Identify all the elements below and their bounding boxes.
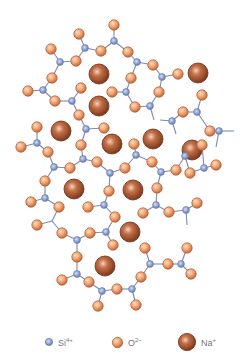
- oxygen-ion: [186, 269, 196, 279]
- silicate-structure-diagram: [0, 0, 252, 320]
- silicon-ion: [153, 202, 160, 209]
- oxygen-ion: [57, 275, 67, 285]
- oxygen-ion: [112, 284, 122, 294]
- si-ion-icon: [44, 337, 54, 347]
- silicon-ion: [182, 153, 189, 160]
- oxygen-ion: [152, 183, 162, 193]
- oxygen-ion: [164, 207, 174, 217]
- oxygen-ion: [93, 301, 103, 311]
- oxygen-ion: [197, 140, 207, 150]
- oxygen-ion: [54, 202, 64, 212]
- oxygen-ion: [140, 243, 150, 253]
- silicon-ion: [80, 156, 87, 163]
- silicon-ion: [74, 237, 81, 244]
- oxygen-ion: [23, 86, 33, 96]
- sodium-ion: [143, 129, 163, 149]
- silicon-ion: [133, 152, 140, 159]
- oxygen-ion: [130, 102, 140, 112]
- legend-item-o: O2−: [111, 330, 142, 354]
- sodium-ion: [64, 179, 84, 199]
- sodium-ion: [120, 222, 140, 242]
- oxygen-ion: [192, 198, 202, 208]
- oxygen-ion: [185, 168, 195, 178]
- o-ion-icon: [111, 336, 124, 349]
- silicon-ion: [123, 89, 130, 96]
- silicon-ion: [57, 59, 64, 66]
- oxygen-ion: [57, 228, 67, 238]
- silicon-ion: [129, 286, 136, 293]
- oxygen-ion: [138, 208, 148, 218]
- oxygen-ion: [85, 228, 95, 238]
- oxygen-ion: [136, 272, 146, 282]
- oxygen-ion: [109, 20, 119, 30]
- silicon-ion: [82, 45, 89, 52]
- silicon-ion: [183, 207, 190, 214]
- legend-label-si: Si4+: [58, 337, 73, 348]
- oxygen-ion: [76, 83, 86, 93]
- oxygen-ion: [26, 197, 36, 207]
- oxygen-ion: [40, 176, 50, 186]
- oxygen-ion: [83, 202, 93, 212]
- oxygen-ion: [110, 212, 120, 222]
- oxygen-ion: [211, 160, 221, 170]
- silicon-ion: [42, 195, 49, 202]
- silicon-ion: [134, 59, 141, 66]
- oxygen-ion: [65, 163, 75, 173]
- silicon-ion: [111, 38, 118, 45]
- oxygen-ion-layer: [16, 20, 221, 311]
- oxygen-ion: [71, 56, 81, 66]
- silicon-ion: [74, 271, 81, 278]
- silicon-ion: [147, 103, 154, 110]
- na-ion-icon: [177, 332, 197, 352]
- oxygen-ion: [92, 157, 102, 167]
- oxygen-ion: [108, 240, 118, 250]
- sodium-ion: [51, 121, 71, 141]
- silicon-ion: [99, 288, 106, 295]
- oxygen-ion: [74, 29, 84, 39]
- silicon-ion: [216, 128, 223, 135]
- silicon-ion: [107, 170, 114, 177]
- silicon-ion: [34, 140, 41, 147]
- oxygen-ion: [32, 220, 42, 230]
- oxygen-ion: [154, 87, 164, 97]
- silicon-ion: [101, 202, 108, 209]
- oxygen-ion: [74, 110, 84, 120]
- sodium-ion: [102, 134, 122, 154]
- silicon-ion: [103, 229, 110, 236]
- oxygen-ion: [205, 126, 215, 136]
- sodium-ion: [188, 63, 208, 83]
- oxygen-ion: [107, 87, 117, 97]
- oxygen-ion: [50, 96, 60, 106]
- legend-item-si: Si4+: [44, 330, 73, 354]
- silicon-ion: [40, 87, 47, 94]
- oxygen-ion: [99, 123, 109, 133]
- sodium-ion: [95, 256, 115, 276]
- oxygen-ion: [72, 252, 82, 262]
- legend: Si4+ O2− Na+: [0, 330, 252, 354]
- silicon-ion: [194, 109, 201, 116]
- silicon-ion: [83, 126, 90, 133]
- oxygen-ion: [171, 165, 181, 175]
- oxygen-ion: [182, 243, 192, 253]
- legend-label-o: O2−: [128, 337, 142, 348]
- oxygen-ion: [84, 277, 94, 287]
- oxygen-ion: [147, 157, 157, 167]
- legend-label-na: Na+: [201, 337, 216, 348]
- silicon-ion: [169, 118, 176, 125]
- legend-item-na: Na+: [177, 330, 216, 354]
- oxygen-ion: [32, 122, 42, 132]
- oxygen-ion: [43, 147, 53, 157]
- oxygen-ion: [16, 142, 26, 152]
- silicon-ion: [201, 165, 208, 172]
- silicon-ion: [147, 261, 154, 268]
- oxygen-ion: [96, 46, 106, 56]
- oxygen-ion: [197, 90, 207, 100]
- silicon-ion: [178, 261, 185, 268]
- sodium-ion: [89, 64, 109, 84]
- oxygen-ion: [148, 60, 158, 70]
- silicon-ion: [69, 98, 76, 105]
- oxygen-ion: [131, 300, 141, 310]
- oxygen-ion: [104, 186, 114, 196]
- oxygen-ion: [76, 140, 86, 150]
- oxygen-ion: [46, 44, 56, 54]
